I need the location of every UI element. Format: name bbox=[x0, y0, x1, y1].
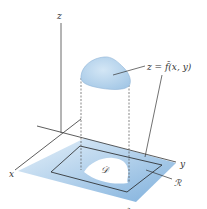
surface-blob bbox=[81, 57, 130, 90]
y-axis-label: y bbox=[179, 159, 186, 169]
surface-equation-label: z = f̃(x, y) bbox=[146, 61, 192, 72]
diagram-canvas: z x y z = f̃(x, y) 𝒟 ℛ z bbox=[0, 0, 207, 209]
x-axis-label: x bbox=[9, 169, 14, 179]
z-axis-label: z bbox=[56, 11, 62, 21]
region-r-label: ℛ bbox=[174, 178, 182, 188]
bottom-cut-label: z bbox=[126, 205, 131, 209]
r-leader-line bbox=[145, 75, 162, 157]
